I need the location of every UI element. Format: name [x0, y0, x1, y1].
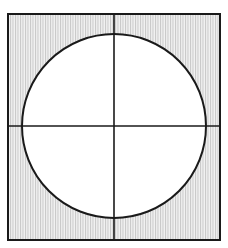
figure-root: [0, 0, 228, 248]
geometry-diagram: [0, 0, 228, 248]
